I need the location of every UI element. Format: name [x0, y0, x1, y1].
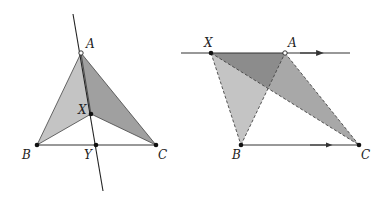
- point-c: [357, 143, 362, 148]
- point-a: [79, 51, 83, 55]
- label-x: X: [203, 36, 213, 50]
- geometry-figure: A X B Y C X A B C: [0, 0, 391, 201]
- label-c: C: [158, 148, 167, 162]
- point-b: [239, 143, 244, 148]
- triangle-acx: [81, 53, 156, 145]
- point-b: [35, 143, 40, 148]
- label-a: A: [85, 37, 95, 51]
- point-c: [154, 143, 159, 148]
- point-x: [89, 112, 94, 117]
- label-y: Y: [84, 148, 93, 162]
- left-figure: A X B Y C: [21, 14, 167, 191]
- label-a: A: [287, 36, 297, 50]
- label-x: X: [77, 103, 87, 117]
- label-b: B: [231, 148, 241, 162]
- point-y: [94, 143, 99, 148]
- label-b: B: [21, 148, 31, 162]
- label-c: C: [361, 148, 370, 162]
- point-a: [283, 51, 287, 55]
- right-figure: X A B C: [181, 36, 370, 162]
- point-x: [209, 51, 214, 56]
